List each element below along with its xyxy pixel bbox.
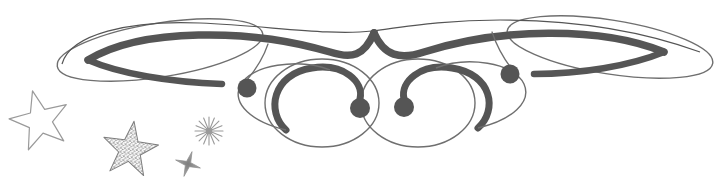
left-outer-dot bbox=[238, 79, 257, 98]
flourish-illustration bbox=[0, 0, 726, 194]
ornament-canvas: Decorative Calligraphic Flourish with St… bbox=[0, 0, 726, 194]
right-inner-dot bbox=[394, 97, 414, 117]
left-inner-dot bbox=[350, 98, 370, 118]
radiating-burst-sparkle bbox=[195, 117, 223, 145]
right-outer-dot bbox=[501, 65, 520, 84]
